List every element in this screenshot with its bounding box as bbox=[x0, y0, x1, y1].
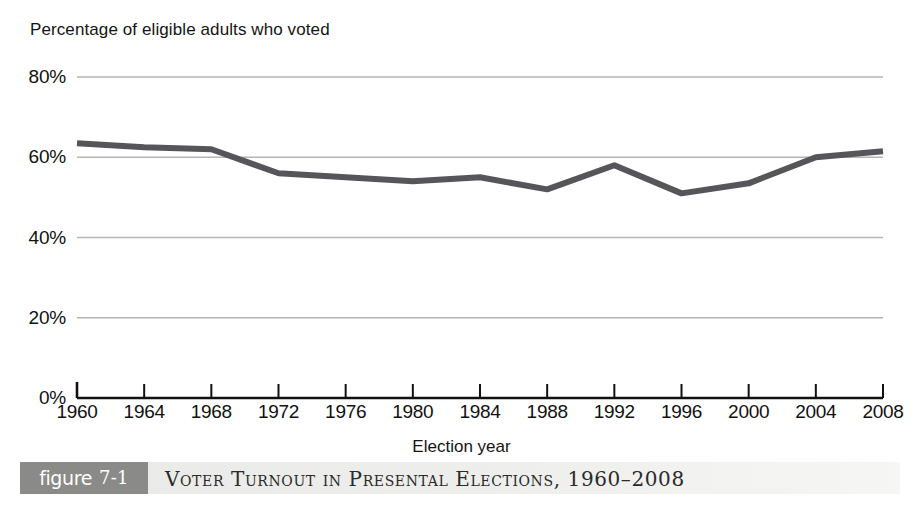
x-axis-title: Election year bbox=[0, 437, 923, 457]
x-tick-label: 2008 bbox=[848, 401, 918, 423]
y-tick-label: 60% bbox=[8, 146, 66, 168]
y-tick-label: 20% bbox=[8, 307, 66, 329]
x-tick-label: 2004 bbox=[781, 401, 851, 423]
figure-container: Percentage of eligible adults who voted … bbox=[0, 0, 923, 505]
y-tick-label: 80% bbox=[8, 66, 66, 88]
line-chart-svg bbox=[0, 0, 923, 440]
figure-caption-row: figure 7-1 Voter Turnout in Presental El… bbox=[0, 462, 923, 496]
gridlines-group bbox=[77, 77, 883, 318]
x-tick-label: 1964 bbox=[109, 401, 179, 423]
figure-caption-text: Voter Turnout in Presental Elections, 19… bbox=[165, 462, 685, 496]
x-tick-label: 1980 bbox=[378, 401, 448, 423]
y-tick-label: 40% bbox=[8, 227, 66, 249]
x-tick-label: 1960 bbox=[42, 401, 112, 423]
figure-badge-label: figure bbox=[39, 469, 92, 488]
x-tick-label: 1976 bbox=[311, 401, 381, 423]
x-tick-label: 1972 bbox=[244, 401, 314, 423]
x-tick-label: 1992 bbox=[579, 401, 649, 423]
x-tick-label: 1968 bbox=[176, 401, 246, 423]
x-tick-label: 2000 bbox=[714, 401, 784, 423]
figure-number-badge: figure 7-1 bbox=[20, 462, 148, 494]
x-tick-label: 1996 bbox=[647, 401, 717, 423]
figure-badge-number: 7-1 bbox=[99, 469, 129, 487]
x-tick-label: 1984 bbox=[445, 401, 515, 423]
x-tick-label: 1988 bbox=[512, 401, 582, 423]
chart-plot-area: 0%20%40%60%80% 1960196419681972197619801… bbox=[0, 0, 923, 440]
data-series-line-group bbox=[77, 143, 883, 193]
x-tick-marks-group bbox=[77, 384, 883, 398]
